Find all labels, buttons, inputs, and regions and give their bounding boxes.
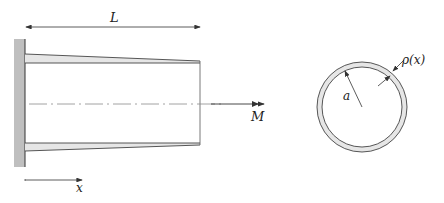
- radius-label: a: [343, 89, 350, 103]
- moment-arrow: M: [211, 101, 265, 124]
- cantilever-diagram: L M x a ρ(x): [0, 0, 444, 203]
- x-axis-label: x: [76, 181, 83, 195]
- thickness-label: ρ(x): [401, 53, 426, 67]
- cross-section: a ρ(x): [317, 53, 426, 152]
- moment-label: M: [250, 109, 265, 124]
- fixed-wall: [14, 39, 25, 167]
- length-dimension: L: [26, 10, 200, 27]
- x-axis: x: [25, 179, 83, 195]
- length-label: L: [109, 10, 119, 25]
- tapered-beam: [25, 54, 200, 151]
